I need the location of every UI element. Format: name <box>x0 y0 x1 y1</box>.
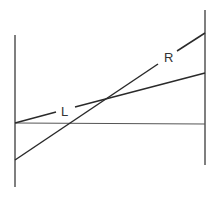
line-L <box>15 73 205 123</box>
lines-diagram: L R <box>0 0 219 204</box>
label-L: L <box>61 104 68 119</box>
label-R: R <box>164 50 173 65</box>
line-R <box>15 33 205 160</box>
baseline <box>15 123 205 124</box>
